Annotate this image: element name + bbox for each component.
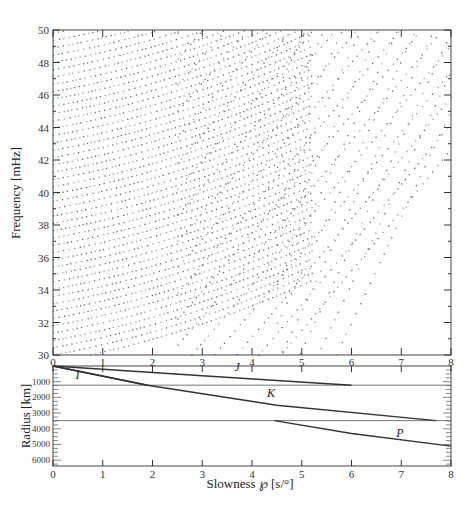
svg-text:32: 32 bbox=[38, 317, 49, 329]
svg-text:1000: 1000 bbox=[32, 377, 51, 387]
radius-axis-title: Radius [km] bbox=[18, 384, 33, 449]
svg-text:2000: 2000 bbox=[32, 392, 51, 402]
svg-text:K: K bbox=[266, 386, 276, 400]
svg-text:6: 6 bbox=[349, 468, 355, 480]
dispersion-figure: 3032343638404244464850012345678 10002000… bbox=[0, 0, 472, 505]
svg-text:44: 44 bbox=[38, 122, 50, 134]
slowness-axis-title: Slowness ℘ [s/°] bbox=[206, 476, 293, 491]
svg-text:46: 46 bbox=[38, 89, 50, 101]
svg-text:38: 38 bbox=[38, 219, 50, 231]
svg-text:5000: 5000 bbox=[32, 439, 51, 449]
svg-text:0: 0 bbox=[50, 468, 56, 480]
svg-text:1: 1 bbox=[100, 468, 106, 480]
svg-text:4000: 4000 bbox=[32, 424, 51, 434]
svg-text:3: 3 bbox=[200, 468, 206, 480]
svg-text:5: 5 bbox=[299, 468, 305, 480]
upper-plot-frame: 3032343638404244464850012345678 bbox=[38, 24, 454, 368]
svg-text:8: 8 bbox=[448, 468, 454, 480]
svg-text:2: 2 bbox=[150, 468, 156, 480]
svg-text:36: 36 bbox=[38, 252, 50, 264]
ray-curve-P bbox=[274, 421, 451, 447]
svg-text:J: J bbox=[235, 360, 241, 374]
svg-text:42: 42 bbox=[38, 154, 49, 166]
svg-text:I: I bbox=[74, 368, 80, 382]
svg-text:34: 34 bbox=[38, 284, 50, 296]
svg-text:3000: 3000 bbox=[32, 408, 51, 418]
svg-text:50: 50 bbox=[38, 24, 50, 36]
svg-text:P: P bbox=[395, 426, 404, 440]
svg-text:7: 7 bbox=[399, 468, 405, 480]
svg-text:40: 40 bbox=[38, 187, 50, 199]
svg-text:6000: 6000 bbox=[32, 455, 51, 465]
ray-paths-plot: 100020003000400050006000012345678IJKP bbox=[32, 360, 454, 480]
dispersion-dots bbox=[53, 30, 452, 356]
svg-text:48: 48 bbox=[38, 57, 50, 69]
svg-text:30: 30 bbox=[38, 349, 50, 361]
ray-curve-K bbox=[53, 366, 436, 421]
frequency-axis-title: Frequency [mHz] bbox=[8, 147, 23, 239]
